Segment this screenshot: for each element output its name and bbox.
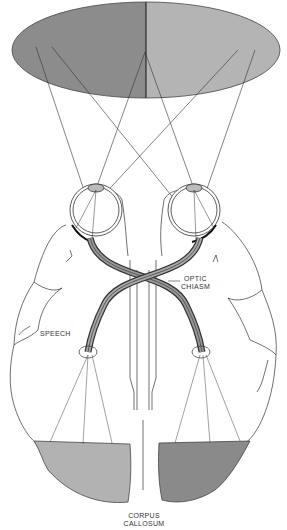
speech-label: SPEECH xyxy=(40,330,71,338)
optic-chiasm-label: OPTIC CHIASM xyxy=(181,275,210,291)
occipital-lobes xyxy=(34,441,250,503)
visual-field-left-half xyxy=(12,2,146,98)
visual-pathway-diagram xyxy=(0,0,287,530)
optic-radiations xyxy=(50,355,240,444)
optic-nerves xyxy=(88,238,202,352)
visual-field-right-half xyxy=(146,2,280,98)
corpus-callosum-label: CORPUS CALLOSUM xyxy=(120,512,168,528)
occipital-lobe-right xyxy=(158,441,250,502)
visual-field xyxy=(12,2,280,98)
occipital-lobe-left xyxy=(34,441,131,503)
